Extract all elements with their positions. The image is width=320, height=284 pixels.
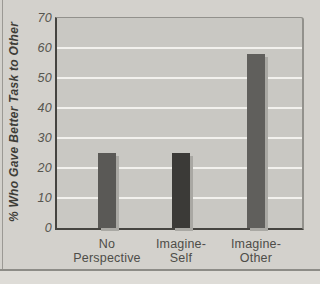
gridline-60 bbox=[57, 47, 302, 49]
y-tick-label-30: 30 bbox=[0, 130, 52, 146]
y-tick-label-60: 60 bbox=[0, 40, 52, 56]
y-tick-label-70: 70 bbox=[0, 10, 52, 26]
x-category-label-imagine-other: Imagine- Other bbox=[206, 237, 306, 266]
y-tick-label-20: 20 bbox=[0, 160, 52, 176]
gridline-40 bbox=[57, 107, 302, 109]
y-tick-label-50: 50 bbox=[0, 70, 52, 86]
y-tick-label-0: 0 bbox=[0, 220, 52, 236]
bar-no-perspective bbox=[98, 153, 116, 228]
gridline-50 bbox=[57, 77, 302, 79]
figure-canvas: % Who Gave Better Task to Other 01020304… bbox=[0, 0, 320, 284]
y-tick-label-10: 10 bbox=[0, 190, 52, 206]
gridline-30 bbox=[57, 137, 302, 139]
bar-imagine-other bbox=[247, 54, 265, 228]
plot-area bbox=[55, 17, 304, 230]
bar-imagine-self bbox=[172, 153, 190, 228]
y-tick-label-40: 40 bbox=[0, 100, 52, 116]
